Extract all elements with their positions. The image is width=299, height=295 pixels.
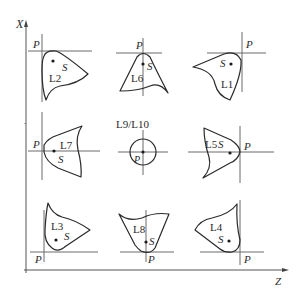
l4-label: L4 bbox=[210, 221, 223, 233]
l1-outline bbox=[193, 53, 241, 100]
s-label: S bbox=[147, 60, 153, 72]
l5-outline bbox=[203, 128, 240, 178]
s-label: S bbox=[220, 57, 226, 69]
cell-l1: P S L1 bbox=[193, 32, 266, 100]
cell-l9-l10: P L9/L10 bbox=[116, 118, 168, 175]
s-dot bbox=[141, 62, 144, 65]
s-label: S bbox=[62, 61, 68, 73]
s-dot bbox=[54, 238, 57, 241]
cell-l6: P S L6 bbox=[116, 38, 168, 96]
l8-label: L8 bbox=[133, 223, 146, 235]
p-label: P bbox=[147, 253, 155, 265]
s-label: S bbox=[64, 230, 70, 242]
p-label: P bbox=[243, 253, 251, 265]
cell-l3: P S L3 bbox=[30, 203, 98, 265]
tool-position-diagram: X Z P S L2 P S L6 P S L1 P bbox=[0, 0, 299, 295]
l9-l10-label: L9/L10 bbox=[116, 118, 149, 130]
x-axis-label: X bbox=[15, 17, 24, 31]
s-dot bbox=[51, 59, 54, 62]
l5-label: L5 bbox=[205, 138, 218, 150]
z-axis-label: Z bbox=[275, 275, 282, 287]
l1-label: L1 bbox=[221, 78, 233, 90]
l6-label: L6 bbox=[131, 72, 144, 84]
p-label: P bbox=[243, 140, 251, 152]
s-dot bbox=[227, 239, 230, 242]
l6-outline bbox=[120, 54, 168, 94]
s-dot bbox=[228, 151, 231, 154]
l3-label: L3 bbox=[51, 220, 64, 232]
x-axis-arrow-icon bbox=[24, 20, 28, 27]
s-label: S bbox=[149, 235, 155, 247]
p-dot bbox=[141, 150, 144, 153]
cell-l4: P S L4 bbox=[195, 200, 264, 265]
p-label: P bbox=[32, 38, 40, 50]
p-label: P bbox=[34, 253, 42, 265]
cell-l8: P S L8 bbox=[119, 210, 174, 265]
s-label: S bbox=[218, 233, 224, 245]
s-label: S bbox=[58, 153, 64, 165]
z-axis-arrow-icon bbox=[282, 268, 289, 272]
cell-l2: P S L2 bbox=[28, 34, 92, 102]
s-dot bbox=[229, 62, 232, 65]
s-dot bbox=[52, 149, 55, 152]
l2-label: L2 bbox=[49, 72, 61, 84]
cell-l5: P S L5 bbox=[188, 126, 274, 183]
p-label: P bbox=[135, 39, 143, 51]
s-label: S bbox=[218, 138, 224, 150]
p-label: P bbox=[133, 154, 140, 165]
p-label: P bbox=[32, 138, 40, 150]
l7-label: L7 bbox=[60, 139, 73, 151]
s-dot bbox=[144, 240, 147, 243]
p-label: P bbox=[245, 38, 253, 50]
cell-l7: P S L7 bbox=[28, 112, 100, 180]
